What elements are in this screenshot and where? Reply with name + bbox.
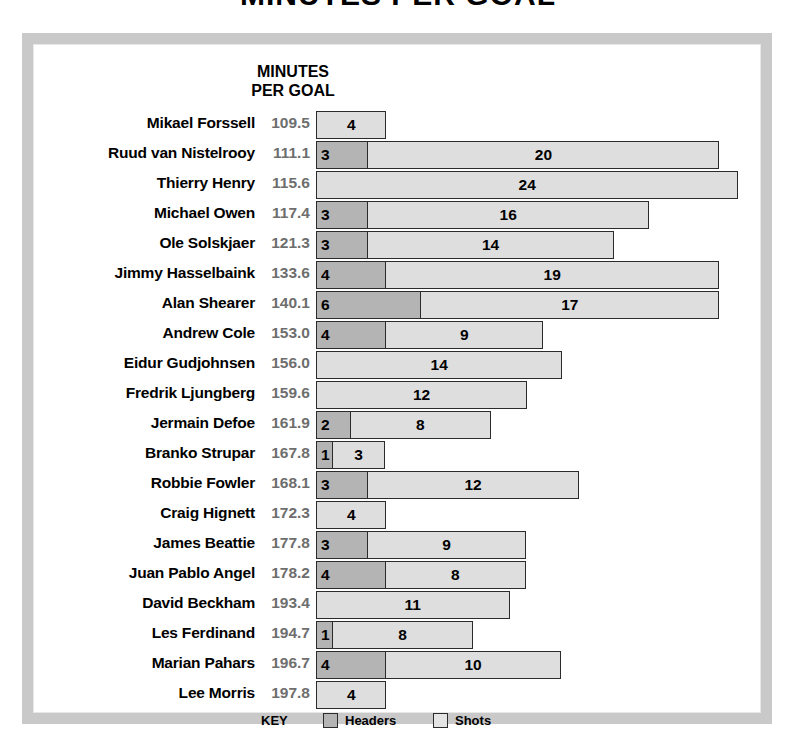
bar-segment-shots: 14 (367, 231, 613, 259)
player-name: Jimmy Hasselbaink (57, 264, 255, 282)
bar-segment-headers: 4 (316, 651, 386, 679)
bar-segment-shots: 24 (316, 171, 738, 199)
player-name: Michael Owen (57, 204, 255, 222)
bar-segment-shots: 12 (367, 471, 578, 499)
bar-segment-shots: 16 (367, 201, 649, 229)
minutes-per-goal-value: 196.7 (255, 654, 310, 672)
bar-row: James Beattie177.839 (33, 530, 761, 560)
minutes-per-goal-value: 167.8 (255, 444, 310, 462)
bar-segment-headers: 1 (316, 621, 334, 649)
legend-item-headers: Headers (323, 713, 396, 728)
chart-title: MINUTES PER GOAL (0, 0, 796, 12)
bar-segment-headers: 3 (316, 471, 369, 499)
bar-row: Eidur Gudjohnsen156.014 (33, 350, 761, 380)
bar-segment-headers: 3 (316, 141, 369, 169)
bar-row: Juan Pablo Angel178.248 (33, 560, 761, 590)
bar-row: Marian Pahars196.7410 (33, 650, 761, 680)
legend-swatch-shots-icon (433, 713, 448, 728)
minutes-per-goal-value: 168.1 (255, 474, 310, 492)
minutes-per-goal-value: 109.5 (255, 114, 310, 132)
stacked-bar: 314 (316, 231, 614, 259)
stacked-bar: 14 (316, 351, 562, 379)
stacked-bar: 617 (316, 291, 719, 319)
bar-segment-shots: 8 (350, 411, 491, 439)
bar-row: Thierry Henry115.624 (33, 170, 761, 200)
minutes-per-goal-value: 115.6 (255, 174, 310, 192)
bar-row: Lee Morris197.84 (33, 680, 761, 710)
stacked-bar: 4 (316, 111, 386, 139)
stacked-bar: 13 (316, 441, 385, 469)
minutes-per-goal-value: 172.3 (255, 504, 310, 522)
bar-row: Ruud van Nistelrooy111.1320 (33, 140, 761, 170)
bar-row: David Beckham193.411 (33, 590, 761, 620)
stacked-bar: 4 (316, 681, 386, 709)
player-name: Craig Hignett (57, 504, 255, 522)
value-column-header: MINUTES PER GOAL (233, 62, 353, 100)
stacked-bar: 28 (316, 411, 491, 439)
bar-segment-shots: 3 (332, 441, 385, 469)
player-name: Branko Strupar (57, 444, 255, 462)
player-name: Marian Pahars (57, 654, 255, 672)
player-name: Jermain Defoe (57, 414, 255, 432)
bar-row: Andrew Cole153.049 (33, 320, 761, 350)
legend-item-shots: Shots (433, 713, 491, 728)
player-name: Juan Pablo Angel (57, 564, 255, 582)
stacked-bar: 316 (316, 201, 649, 229)
player-name: Andrew Cole (57, 324, 255, 342)
stacked-bar: 39 (316, 531, 526, 559)
bar-row: Robbie Fowler168.1312 (33, 470, 761, 500)
bar-segment-shots: 9 (367, 531, 525, 559)
minutes-per-goal-value: 153.0 (255, 324, 310, 342)
stacked-bar: 312 (316, 471, 579, 499)
bar-segment-headers: 6 (316, 291, 422, 319)
chart-frame: MINUTES PER GOAL Mikael Forssell109.54Ru… (22, 33, 772, 724)
player-name: Thierry Henry (57, 174, 255, 192)
bar-segment-shots: 14 (316, 351, 562, 379)
minutes-per-goal-value: 117.4 (255, 204, 310, 222)
bar-segment-shots: 4 (316, 111, 386, 139)
stacked-bar: 49 (316, 321, 543, 349)
minutes-per-goal-value: 197.8 (255, 684, 310, 702)
minutes-per-goal-value: 111.1 (255, 144, 310, 162)
stacked-bar: 12 (316, 381, 527, 409)
bar-segment-shots: 4 (316, 681, 386, 709)
bar-segment-headers: 3 (316, 531, 369, 559)
stacked-bar: 18 (316, 621, 473, 649)
bar-segment-headers: 4 (316, 561, 386, 589)
legend-label-headers: Headers (345, 713, 396, 728)
legend-label-shots: Shots (455, 713, 491, 728)
minutes-per-goal-value: 177.8 (255, 534, 310, 552)
bar-segment-shots: 8 (332, 621, 473, 649)
stacked-bar: 11 (316, 591, 510, 619)
player-name: David Beckham (57, 594, 255, 612)
bar-row: Fredrik Ljungberg159.612 (33, 380, 761, 410)
minutes-per-goal-value: 133.6 (255, 264, 310, 282)
player-name: Mikael Forssell (57, 114, 255, 132)
bar-row: Michael Owen117.4316 (33, 200, 761, 230)
player-name: Ole Solskjaer (57, 234, 255, 252)
stacked-bar: 24 (316, 171, 738, 199)
player-name: Lee Morris (57, 684, 255, 702)
bar-segment-shots: 19 (385, 261, 719, 289)
bar-segment-shots: 10 (385, 651, 561, 679)
bar-rows: Mikael Forssell109.54Ruud van Nistelrooy… (33, 110, 761, 710)
minutes-per-goal-value: 156.0 (255, 354, 310, 372)
bar-segment-shots: 20 (367, 141, 719, 169)
bar-segment-shots: 17 (420, 291, 719, 319)
bar-segment-headers: 1 (316, 441, 334, 469)
player-name: Alan Shearer (57, 294, 255, 312)
bar-segment-headers: 4 (316, 261, 386, 289)
bar-row: Craig Hignett172.34 (33, 500, 761, 530)
bar-segment-headers: 2 (316, 411, 351, 439)
bar-segment-headers: 3 (316, 231, 369, 259)
bar-row: Les Ferdinand194.718 (33, 620, 761, 650)
stacked-bar: 4 (316, 501, 386, 529)
bar-row: Mikael Forssell109.54 (33, 110, 761, 140)
minutes-per-goal-value: 161.9 (255, 414, 310, 432)
minutes-per-goal-value: 194.7 (255, 624, 310, 642)
bar-segment-headers: 4 (316, 321, 386, 349)
bar-row: Branko Strupar167.813 (33, 440, 761, 470)
minutes-per-goal-value: 140.1 (255, 294, 310, 312)
bar-row: Jimmy Hasselbaink133.6419 (33, 260, 761, 290)
stacked-bar: 410 (316, 651, 561, 679)
